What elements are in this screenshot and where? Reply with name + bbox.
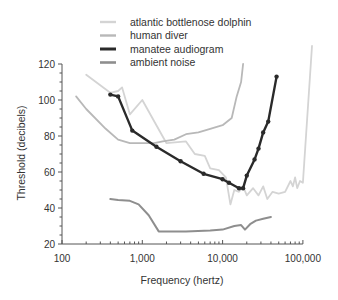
series-ambient-noise [110,199,271,231]
data-point [241,186,245,190]
data-point [227,181,231,185]
legend-label: ambient noise [130,56,196,68]
series-atlantic-bottlenose-dolphin [86,46,312,204]
y-tick-label: 120 [38,59,55,70]
data-point [220,177,224,181]
data-point [201,172,205,176]
y-axis: 20406080100120 [38,59,62,250]
data-point [252,157,256,161]
data-point [245,173,249,177]
y-tick-label: 100 [38,95,55,106]
data-point [237,186,241,190]
data-point [130,128,134,132]
chart-svg: atlantic bottlenose dolphinhuman diverma… [0,0,338,300]
data-point [274,74,278,78]
y-tick-label: 80 [44,131,56,142]
data-point [108,92,112,96]
x-tick-label: 10,000 [207,253,238,264]
data-point [154,145,158,149]
data-point [116,94,120,98]
data-point [256,146,260,150]
x-tick-label: 100 [54,253,71,264]
x-axis: 1001,00010,000100,000 [54,240,322,264]
y-tick-label: 40 [44,203,56,214]
legend-label: manatee audiogram [130,43,224,55]
plot-area [76,46,312,231]
data-point [178,159,182,163]
x-axis-label: Frequency (hertz) [141,274,224,286]
data-point [261,130,265,134]
x-tick-label: 100,000 [285,253,322,264]
legend: atlantic bottlenose dolphinhuman diverma… [100,16,252,69]
y-axis-label: Threshold (decibels) [15,105,27,200]
legend-label: atlantic bottlenose dolphin [130,16,252,28]
data-point [266,119,270,123]
x-tick-label: 1,000 [130,253,155,264]
legend-label: human diver [130,29,188,41]
y-tick-label: 60 [44,167,56,178]
y-tick-label: 20 [44,239,56,250]
